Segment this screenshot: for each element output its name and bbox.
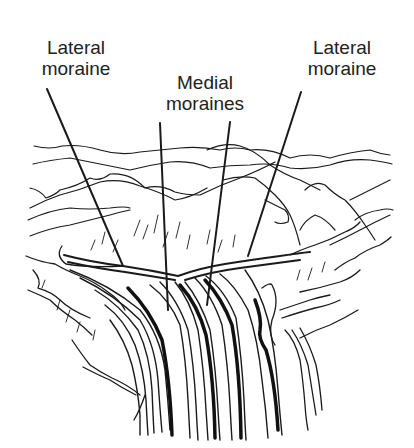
moraine-bands (128, 280, 278, 438)
tributary-flow-lines (262, 284, 340, 430)
glacier-surface-edge (64, 252, 310, 280)
glacier-illustration (0, 0, 414, 448)
valley-walls (26, 222, 391, 420)
mountain-ridges (28, 145, 393, 245)
glacier-flow-lines (70, 270, 282, 440)
